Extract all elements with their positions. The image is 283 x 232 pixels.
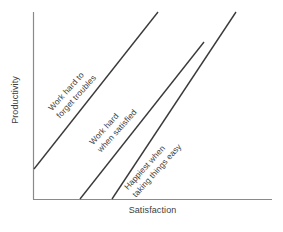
y-axis-label-text: Productivity [10, 76, 20, 124]
chart-canvas [0, 0, 283, 232]
trend-line-3 [112, 12, 236, 199]
x-axis-label-text: Satisfaction [129, 205, 177, 215]
chart-figure: Productivity Satisfaction Work hard to f… [0, 0, 283, 232]
y-axis-label: Productivity [0, 0, 30, 199]
x-axis-label: Satisfaction [33, 205, 272, 215]
